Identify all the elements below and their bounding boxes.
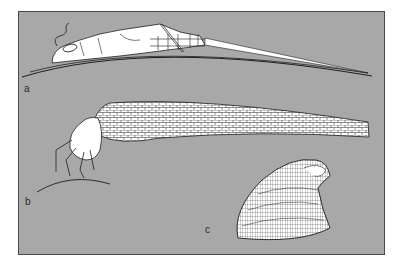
panel-label-b: b xyxy=(25,197,31,207)
antenna xyxy=(55,23,69,46)
panel-a-drawing xyxy=(22,23,372,77)
panel-label-a: a xyxy=(24,84,30,94)
cerci xyxy=(205,38,368,73)
stone-case xyxy=(95,102,369,142)
larva-head xyxy=(70,118,102,161)
panel-c-drawing xyxy=(237,159,330,239)
panel-label-c: c xyxy=(205,225,210,235)
substrate-curve xyxy=(37,180,110,193)
figure-illustration xyxy=(0,0,397,264)
